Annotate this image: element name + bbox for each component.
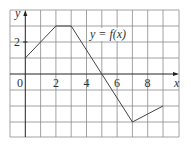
function-graph: y = f(x) y x 0 2 4 6 8 2 xyxy=(0,0,191,144)
y-axis-label: y xyxy=(14,6,21,20)
tick-x-6: 6 xyxy=(114,76,120,90)
x-axis-label: x xyxy=(173,76,180,90)
tick-x-2: 2 xyxy=(53,76,59,90)
tick-0: 0 xyxy=(17,76,23,90)
y-axis-arrow-icon xyxy=(23,10,27,16)
tick-x-4: 4 xyxy=(84,76,90,90)
function-label: y = f(x) xyxy=(89,27,126,41)
tick-y-2: 2 xyxy=(14,35,20,49)
tick-x-8: 8 xyxy=(145,76,151,90)
